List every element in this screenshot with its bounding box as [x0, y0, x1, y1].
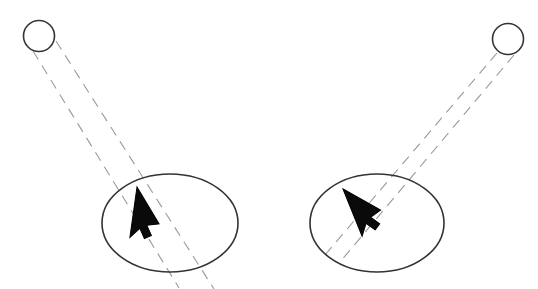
projection-diagram-svg — [0, 0, 538, 289]
diagram-canvas — [0, 0, 538, 289]
background-rect — [0, 0, 538, 289]
